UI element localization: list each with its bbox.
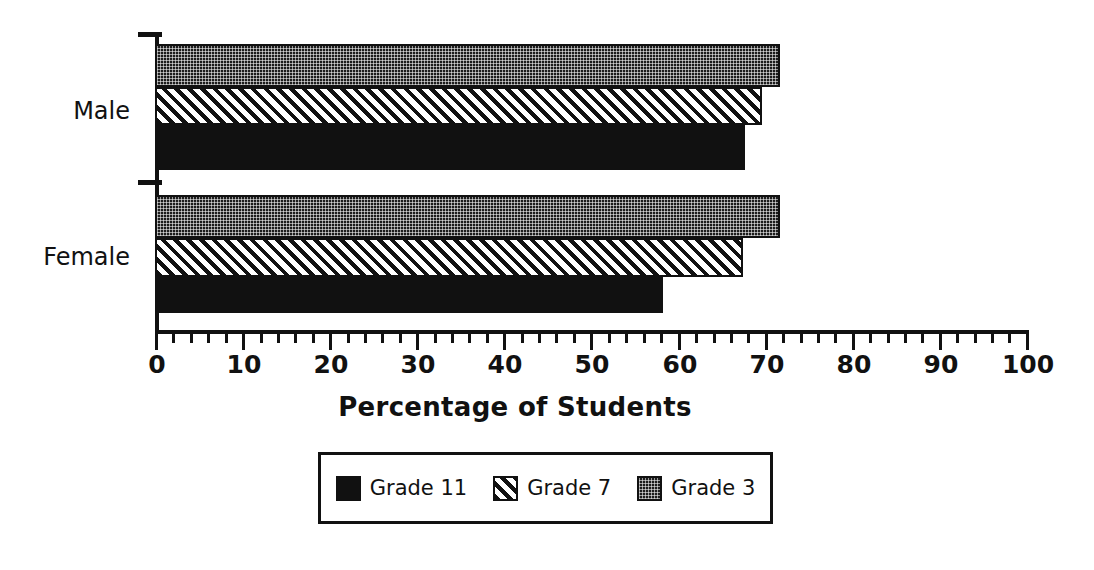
x-tick-minor: [573, 334, 576, 343]
x-tick-major-40: [503, 334, 506, 350]
category-label-female: Female: [10, 243, 130, 271]
legend: Grade 11 Grade 7 Grade 3: [318, 452, 773, 524]
x-tick-minor: [625, 334, 628, 343]
x-tick-label-80: 80: [824, 350, 884, 379]
x-tick-major-20: [329, 334, 332, 350]
bar-male-grade-11: [155, 125, 745, 170]
x-tick-minor: [887, 334, 890, 343]
x-tick-major-90: [939, 334, 942, 350]
x-tick-major-70: [765, 334, 768, 350]
x-tick-minor: [347, 334, 350, 343]
x-tick-major-10: [242, 334, 245, 350]
x-tick-minor: [381, 334, 384, 343]
x-tick-minor: [974, 334, 977, 343]
x-axis-title: Percentage of Students: [0, 392, 1030, 422]
x-tick-minor: [451, 334, 454, 343]
x-tick-label-10: 10: [214, 350, 274, 379]
x-tick-minor: [364, 334, 367, 343]
category-label-male: Male: [10, 97, 130, 125]
legend-item-grade-11: Grade 11: [336, 476, 467, 501]
x-tick-major-60: [678, 334, 681, 350]
checkered-dark-swatch-icon: [637, 476, 662, 501]
x-tick-label-20: 20: [301, 350, 361, 379]
legend-label-grade-3: Grade 3: [671, 476, 755, 500]
x-tick-minor: [869, 334, 872, 343]
x-tick-minor: [800, 334, 803, 343]
x-tick-minor: [538, 334, 541, 343]
x-tick-major-80: [852, 334, 855, 350]
diagonal-hatch-swatch-icon: [493, 476, 518, 501]
bar-female-grade-3: [155, 195, 780, 238]
x-tick-major-100: [1026, 334, 1029, 350]
x-tick-minor: [747, 334, 750, 343]
x-tick-minor: [782, 334, 785, 343]
x-tick-minor: [190, 334, 193, 343]
x-tick-minor: [730, 334, 733, 343]
x-tick-minor: [991, 334, 994, 343]
bar-male-grade-7: [155, 87, 762, 125]
y-axis-tick-top: [138, 32, 162, 37]
solid-black-swatch-icon: [336, 476, 361, 501]
x-tick-minor: [468, 334, 471, 343]
x-tick-minor: [608, 334, 611, 343]
legend-item-grade-7: Grade 7: [493, 476, 611, 501]
plot-area: Male Female: [0, 0, 1094, 570]
x-tick-label-90: 90: [911, 350, 971, 379]
x-tick-minor: [956, 334, 959, 343]
bar-female-grade-11: [155, 277, 663, 313]
x-tick-minor: [660, 334, 663, 343]
legend-label-grade-11: Grade 11: [370, 476, 467, 500]
x-tick-minor: [921, 334, 924, 343]
x-tick-minor: [312, 334, 315, 343]
x-tick-label-70: 70: [737, 350, 797, 379]
x-tick-minor: [695, 334, 698, 343]
x-tick-minor: [834, 334, 837, 343]
x-tick-minor: [713, 334, 716, 343]
bar-female-grade-7: [155, 238, 743, 277]
x-tick-minor: [434, 334, 437, 343]
x-tick-minor: [172, 334, 175, 343]
y-axis-tick-mid: [138, 180, 162, 185]
x-tick-major-50: [590, 334, 593, 350]
x-tick-major-30: [416, 334, 419, 350]
x-tick-minor: [260, 334, 263, 343]
x-tick-minor: [521, 334, 524, 343]
x-tick-label-50: 50: [562, 350, 622, 379]
x-tick-minor: [207, 334, 210, 343]
x-tick-label-30: 30: [388, 350, 448, 379]
x-tick-minor: [817, 334, 820, 343]
legend-item-grade-3: Grade 3: [637, 476, 755, 501]
x-tick-minor: [1008, 334, 1011, 343]
x-tick-minor: [277, 334, 280, 343]
x-tick-label-0: 0: [127, 350, 187, 379]
bar-male-grade-3: [155, 44, 780, 87]
x-tick-major-0: [155, 334, 158, 350]
x-tick-minor: [294, 334, 297, 343]
x-tick-minor: [486, 334, 489, 343]
x-tick-label-40: 40: [475, 350, 535, 379]
x-tick-minor: [904, 334, 907, 343]
x-tick-minor: [643, 334, 646, 343]
x-tick-minor: [225, 334, 228, 343]
x-tick-label-100: 100: [998, 350, 1058, 379]
horizontal-bar-chart: Male Female: [0, 0, 1094, 570]
x-tick-label-60: 60: [650, 350, 710, 379]
x-tick-minor: [399, 334, 402, 343]
x-tick-minor: [555, 334, 558, 343]
legend-label-grade-7: Grade 7: [527, 476, 611, 500]
